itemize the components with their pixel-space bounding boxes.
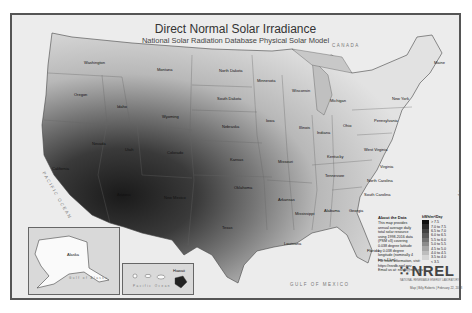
state-label: Maine	[434, 60, 445, 65]
nrel-logo-icon: ⁙	[398, 262, 412, 279]
nrel-logo: ⁙NREL	[398, 262, 454, 280]
color-scale: kWh/m²/Day > 7.57.0 to 7.56.5 to 7.06.0 …	[422, 215, 461, 264]
alaska-shape	[29, 228, 119, 294]
nrel-logo-text: NREL	[412, 262, 455, 279]
state-label: Texas	[222, 225, 232, 230]
state-label: Georgia	[349, 208, 363, 213]
state-label: New York	[392, 96, 409, 101]
state-label: North Carolina	[367, 178, 393, 183]
state-label: Kentucky	[327, 154, 343, 159]
state-label: Montana	[157, 67, 173, 72]
state-label: Mississippi	[295, 211, 314, 216]
map-title: Direct Normal Solar Irradiance	[12, 22, 459, 36]
state-label: Nevada	[92, 141, 106, 146]
state-label: Michigan	[330, 98, 346, 103]
legend-label: > 7.5	[431, 220, 439, 224]
map-frame: Direct Normal Solar Irradiance National …	[10, 13, 461, 300]
state-label: Virginia	[380, 164, 393, 169]
state-label: Wisconsin	[292, 88, 310, 93]
hawaii-inset: Hawaii Pacific Ocean	[122, 263, 194, 295]
state-label: Illinois	[299, 125, 310, 130]
state-label: Arizona	[117, 192, 131, 197]
state-label: Kansas	[230, 157, 243, 162]
state-label: Pennsylvania	[374, 118, 398, 123]
alaska-inset: Alaska Gulf of Alaska	[28, 227, 120, 295]
hawaii-ocean-label: Pacific Ocean	[133, 284, 171, 288]
legend-label: 6.5 to 7.0	[431, 229, 446, 233]
state-label: Ohio	[343, 123, 351, 128]
state-label: Oklahoma	[234, 185, 252, 190]
legend-label: 5.5 to 6.0	[431, 238, 446, 242]
state-label: Minnesota	[257, 78, 275, 83]
scale-title: kWh/m²/Day	[422, 215, 461, 219]
alaska-label: Alaska	[67, 252, 79, 257]
state-label: South Carolina	[364, 192, 390, 197]
state-label: Arkansas	[278, 197, 295, 202]
legend-label: 4.5 to 5.0	[431, 247, 446, 251]
hawaii-label: Hawaii	[173, 268, 185, 273]
state-label: South Dakota	[217, 96, 241, 101]
state-label: Indiana	[317, 130, 330, 135]
water-label: CANADA	[332, 43, 360, 48]
state-label: Nebraska	[222, 124, 239, 129]
state-label: North Dakota	[219, 68, 243, 73]
nrel-subtitle: NATIONAL RENEWABLE ENERGY LABORATORY	[400, 279, 460, 282]
state-label: Missouri	[278, 159, 293, 164]
state-label: Washington	[84, 60, 105, 65]
state-label: Utah	[125, 147, 133, 152]
about-title: About the Data	[378, 215, 406, 220]
about-text: This map provides annual average daily t…	[378, 221, 416, 262]
state-label: Oregon	[74, 92, 87, 97]
legend-label: 5.0 to 5.5	[431, 242, 446, 246]
map-subtitle: National Solar Radiation Database Physic…	[12, 36, 459, 45]
water-label: GULF OF MEXICO	[290, 282, 350, 287]
legend-label: 4.0 to 4.5	[431, 251, 446, 255]
state-label: Alabama	[324, 208, 340, 213]
legend-label: 7.0 to 7.5	[431, 225, 446, 229]
legend-label: 3.5 to 4.0	[431, 255, 446, 259]
legend-label: 6.0 to 6.5	[431, 233, 446, 237]
state-label: Louisiana	[284, 241, 301, 246]
map-credit: Map | Billy Roberts | February 22, 2018	[410, 286, 462, 290]
state-label: California	[52, 166, 69, 171]
state-label: New Mexico	[164, 195, 186, 200]
state-label: Tennessee	[325, 173, 344, 178]
state-label: Wyoming	[162, 114, 179, 119]
state-label: West Virginia	[364, 147, 387, 152]
state-label: Idaho	[117, 104, 127, 109]
gulf-of-alaska-label: Gulf of Alaska	[69, 276, 109, 280]
state-label: Colorado	[167, 150, 183, 155]
state-label: Iowa	[266, 118, 274, 123]
